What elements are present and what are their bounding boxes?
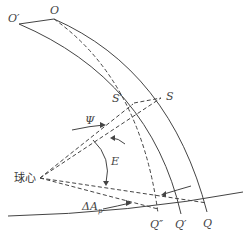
label-psi: Ψ (85, 114, 95, 127)
label-delta-a: ΔAp (81, 200, 103, 215)
ray-geometry-diagram: O′ O S S′ Ψ E 球心 ΔAp Q″ Q′ Q (0, 0, 251, 233)
psi-arrow-head-icon (100, 122, 106, 128)
ray-path-o-to-q (54, 19, 207, 212)
psi-arrow-head-right-icon (110, 135, 115, 141)
label-q: Q (203, 217, 212, 230)
q-region-arrow-line (164, 186, 191, 194)
ray-path-o-prime-to-q-prime (19, 24, 181, 214)
label-sphere-center: 球心 (14, 171, 36, 185)
elevation-arrow-head-icon (103, 181, 109, 186)
elevation-angle-arc (93, 140, 107, 183)
delta-a-arrow-line (103, 203, 130, 209)
label-q-prime: Q′ (175, 218, 187, 231)
label-e: E (110, 155, 119, 168)
segment-o-prime-o (19, 19, 54, 24)
dashed-center-to-s (40, 98, 161, 178)
label-s: S (166, 90, 174, 103)
label-o-prime: O′ (8, 12, 20, 25)
label-s-prime: S′ (112, 92, 123, 105)
dashed-center-to-q (40, 178, 207, 203)
label-q-double-prime: Q″ (150, 218, 164, 231)
label-o: O (50, 4, 59, 17)
